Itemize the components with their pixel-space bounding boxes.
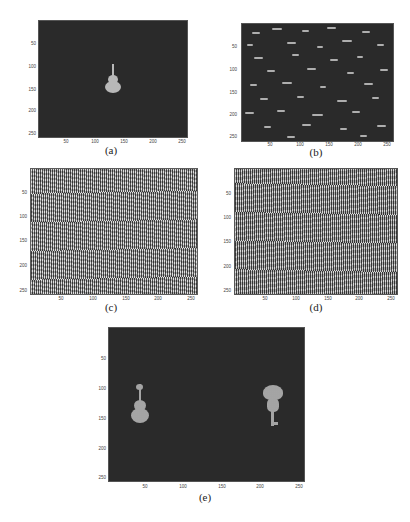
caption-d: (d) [310,301,323,313]
xtick: 100 [89,296,97,301]
ytick: 150 [22,87,36,92]
ytick: 150 [223,90,237,95]
image-plot-e [108,327,305,482]
xtick: 100 [296,142,304,147]
ytick: 150 [13,238,27,243]
ytick: 100 [217,215,231,220]
xtick: 150 [218,484,226,489]
image-plot-d [234,168,398,295]
ytick: 150 [217,239,231,244]
ytick: 250 [92,475,106,480]
ytick: 200 [22,108,36,113]
ytick: 50 [92,356,106,361]
xtick: 200 [149,139,157,144]
xtick: 250 [295,484,303,489]
ytick: 250 [217,288,231,293]
xtick: 50 [63,139,68,144]
xtick: 200 [354,142,362,147]
xtick: 100 [91,139,99,144]
image-plot-c [30,168,198,295]
ytick: 50 [13,190,27,195]
ytick: 250 [13,288,27,293]
ytick: 200 [92,446,106,451]
caption-b: (b) [310,146,323,158]
caption-c: (c) [105,301,117,313]
xtick: 250 [383,142,391,147]
xtick: 100 [292,296,300,301]
xtick: 50 [58,296,63,301]
xtick: 200 [355,296,363,301]
xtick: 250 [387,296,395,301]
ytick: 100 [92,386,106,391]
ytick: 50 [217,191,231,196]
xtick: 250 [187,296,195,301]
caption-e: (e) [199,491,211,503]
ytick: 250 [223,134,237,139]
ytick: 200 [13,263,27,268]
ytick: 200 [217,264,231,269]
xtick: 100 [179,484,187,489]
ytick: 50 [223,44,237,49]
ytick: 100 [223,67,237,72]
xtick: 50 [142,484,147,489]
caption-a: (a) [105,144,117,156]
ytick: 200 [223,112,237,117]
ytick: 250 [22,131,36,136]
xtick: 150 [324,296,332,301]
ytick: 150 [92,416,106,421]
xtick: 50 [262,296,267,301]
ytick: 100 [13,214,27,219]
xtick: 200 [154,296,162,301]
image-plot-b [241,23,394,142]
violin-lower-body [105,81,121,93]
ytick: 100 [22,64,36,69]
ytick: 50 [22,41,36,46]
xtick: 200 [256,484,264,489]
xtick: 50 [267,142,272,147]
xtick: 150 [120,139,128,144]
image-plot-a [38,20,188,138]
xtick: 150 [122,296,130,301]
xtick: 150 [325,142,333,147]
xtick: 250 [178,139,186,144]
